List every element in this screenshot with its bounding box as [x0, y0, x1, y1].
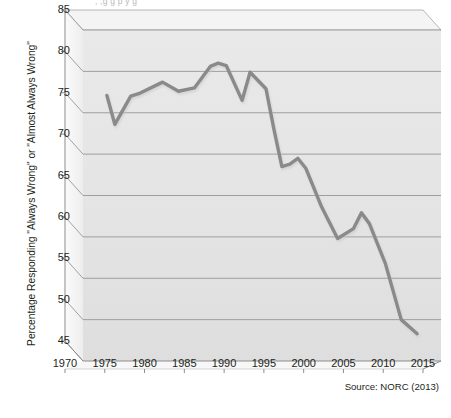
y-tick-label: 55 [36, 252, 70, 263]
y-tick-label: 45 [36, 335, 70, 346]
y-tick-label: 50 [36, 294, 70, 305]
y-axis-tick-labels: 455055606570758085 [38, 0, 70, 418]
y-tick-label: 80 [36, 45, 70, 56]
y-tick-label: 60 [36, 211, 70, 222]
x-axis-tick-labels: 1970197519801985199019952000200520102015 [0, 358, 451, 376]
x-tick-label: 2015 [400, 358, 446, 369]
y-tick-label: 75 [36, 87, 70, 98]
source-note: Source: NORC (2013) [345, 381, 439, 392]
y-axis-title: Percentage Responding "Always Wrong" or … [26, 23, 37, 365]
y-tick-label: 70 [36, 128, 70, 139]
y-tick-label: 85 [36, 4, 70, 15]
chart-container: , ,g g p y g Percentage Responding "Alwa… [0, 0, 451, 418]
plot-geometry [65, 10, 441, 369]
chart-title-cropped: , ,g g p y g [95, 0, 370, 6]
y-tick-label: 65 [36, 170, 70, 181]
